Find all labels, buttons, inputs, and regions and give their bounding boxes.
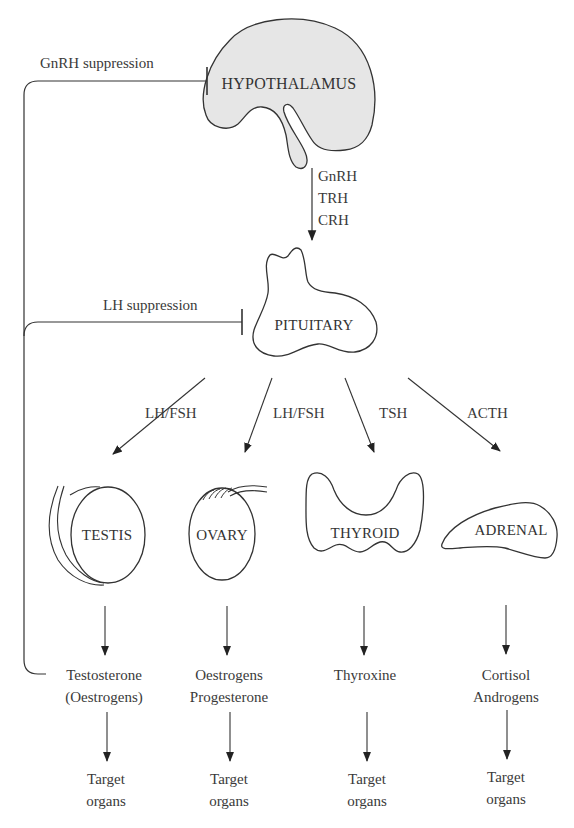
- feedback-line: [24, 81, 207, 674]
- product-oestrogens-minor: (Oestrogens): [65, 686, 142, 708]
- output-label-ovary: LH/FSH: [273, 402, 325, 424]
- ovary-label: OVARY: [196, 527, 248, 544]
- ovary-products: Oestrogens Progesterone: [190, 664, 268, 708]
- target-organs-adrenal: Target organs: [486, 766, 526, 810]
- pituitary-label: PITUITARY: [275, 317, 354, 334]
- testis-label: TESTIS: [82, 527, 132, 544]
- organs-label: organs: [86, 790, 126, 812]
- target-label: Target: [486, 766, 526, 788]
- hormone-crh: CRH: [318, 209, 357, 231]
- thyroid-label: THYROID: [331, 525, 400, 542]
- product-progesterone: Progesterone: [190, 686, 268, 708]
- target-organs-thyroid: Target organs: [347, 768, 387, 812]
- organs-label: organs: [486, 788, 526, 810]
- organs-label: organs: [209, 790, 249, 812]
- lh-suppression-label: LH suppression: [103, 294, 198, 316]
- adrenal-label: ADRENAL: [474, 522, 547, 539]
- pituitary-shape: [253, 248, 377, 356]
- lh-feedback-branch: [24, 322, 242, 336]
- output-label-adrenal: ACTH: [467, 402, 508, 424]
- product-oestrogens: Oestrogens: [190, 664, 268, 686]
- product-cortisol: Cortisol: [473, 664, 539, 686]
- hormone-gnrh: GnRH: [318, 165, 357, 187]
- endocrine-axis-diagram: HYPOTHALAMUS PITUITARY TESTIS OVARY THYR…: [0, 0, 574, 828]
- testis-products: Testosterone (Oestrogens): [65, 664, 142, 708]
- target-organs-testis: Target organs: [86, 768, 126, 812]
- organs-label: organs: [347, 790, 387, 812]
- gnrh-suppression-label: GnRH suppression: [40, 52, 154, 74]
- product-testosterone: Testosterone: [65, 664, 142, 686]
- target-organs-ovary: Target organs: [209, 768, 249, 812]
- releasing-hormones-list: GnRH TRH CRH: [318, 165, 357, 231]
- target-label: Target: [86, 768, 126, 790]
- thyroid-products: Thyroxine: [334, 664, 396, 686]
- output-label-thyroid: TSH: [379, 402, 407, 424]
- hormone-trh: TRH: [318, 187, 357, 209]
- tsh-thyroid-arrow: [345, 378, 374, 452]
- target-label: Target: [209, 768, 249, 790]
- product-androgens: Androgens: [473, 686, 539, 708]
- hypothalamus-shape: [203, 19, 375, 168]
- target-label: Target: [347, 768, 387, 790]
- adrenal-products: Cortisol Androgens: [473, 664, 539, 708]
- hypothalamus-label: HYPOTHALAMUS: [222, 75, 357, 93]
- lhfsh-ovary-arrow: [245, 378, 272, 452]
- product-thyroxine: Thyroxine: [334, 664, 396, 686]
- output-label-testis: LH/FSH: [145, 402, 197, 424]
